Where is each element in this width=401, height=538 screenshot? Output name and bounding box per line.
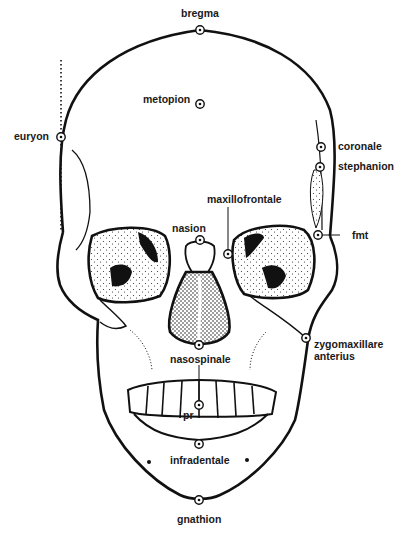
- marker-infradentale: [195, 440, 203, 448]
- marker-nasion: [196, 236, 204, 244]
- right-mental-foramen: [245, 458, 249, 462]
- label-nasospinale: nasospinale: [170, 353, 231, 365]
- marker-stephanion: [316, 163, 324, 171]
- left-mental-foramen: [147, 460, 151, 464]
- nasal-bones: [185, 242, 214, 273]
- marker-pr: [195, 401, 203, 409]
- label-infradentale: infradentale: [170, 454, 230, 466]
- label-gnathion: gnathion: [177, 513, 221, 525]
- right-zygomaxillary-suture: [250, 296, 306, 338]
- marker-maxillofrontale: [224, 250, 232, 258]
- label-stephanion: stephanion: [338, 160, 394, 172]
- label-pr: pr: [183, 409, 194, 421]
- label-coronale: coronale: [338, 140, 382, 152]
- left-zygomaxillary-suture: [100, 300, 126, 329]
- marker-metopion: [196, 100, 204, 108]
- label-maxillofrontale: maxillofrontale: [207, 193, 282, 205]
- temporal-fossa-right-stipple: [310, 170, 323, 228]
- left-canine-fossa: [130, 330, 152, 370]
- cranial-vault-outline: [60, 30, 334, 236]
- label-metopion: metopion: [143, 93, 190, 105]
- marker-coronale: [317, 143, 325, 151]
- lower-teeth: [134, 414, 268, 440]
- marker-nasospinale: [195, 341, 203, 349]
- label-zygomaxillare-anterius: zygomaxillare anterius: [314, 338, 383, 362]
- temporal-fossa-left: [72, 150, 90, 250]
- marker-zygomaxillare: [302, 334, 310, 342]
- marker-fmt: [314, 231, 322, 239]
- marker-euryon: [57, 133, 65, 141]
- nasal-septum: [199, 276, 200, 344]
- label-nasion: nasion: [172, 222, 206, 234]
- label-bregma: bregma: [181, 7, 219, 19]
- right-canine-fossa: [250, 332, 266, 370]
- marker-gnathion: [195, 496, 203, 504]
- label-fmt: fmt: [352, 229, 368, 241]
- marker-bregma: [196, 26, 204, 34]
- label-euryon: euryon: [14, 130, 49, 142]
- skull-diagram: bregma metopion euryon coronale stephani…: [0, 0, 401, 538]
- left-orbit: [89, 228, 170, 303]
